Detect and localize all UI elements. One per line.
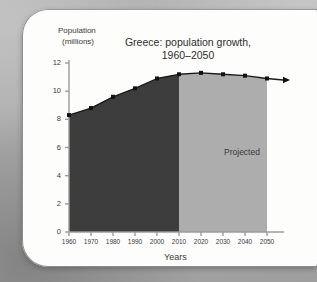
x-axis-label: Years xyxy=(164,252,187,262)
chart-plot-area xyxy=(22,9,317,267)
y-tick-label: 4 xyxy=(47,171,61,180)
x-tick-label: 1980 xyxy=(101,238,125,245)
y-tick-label: 12 xyxy=(47,58,61,67)
population-growth-chart: Population (millions) Greece: population… xyxy=(22,9,317,267)
y-tick-label: 8 xyxy=(47,114,61,123)
trend-arrow-icon xyxy=(283,77,290,83)
y-tick-label: 6 xyxy=(47,143,61,152)
x-tick-label: 2020 xyxy=(189,238,213,245)
y-tick-label: 2 xyxy=(47,199,61,208)
x-tick-label: 1970 xyxy=(79,238,103,245)
projected-annotation: Projected xyxy=(207,147,277,157)
x-tick-label: 2000 xyxy=(145,238,169,245)
chart-page: Population (millions) Greece: population… xyxy=(0,0,317,282)
x-tick-label: 1960 xyxy=(57,238,81,245)
y-tick-label: 0 xyxy=(47,227,61,236)
x-tick-label: 1990 xyxy=(123,238,147,245)
x-tick-label: 2050 xyxy=(255,238,279,245)
x-tick-label: 2040 xyxy=(233,238,257,245)
x-tick-label: 2030 xyxy=(211,238,235,245)
x-tick-label: 2010 xyxy=(167,238,191,245)
y-tick-label: 10 xyxy=(47,86,61,95)
